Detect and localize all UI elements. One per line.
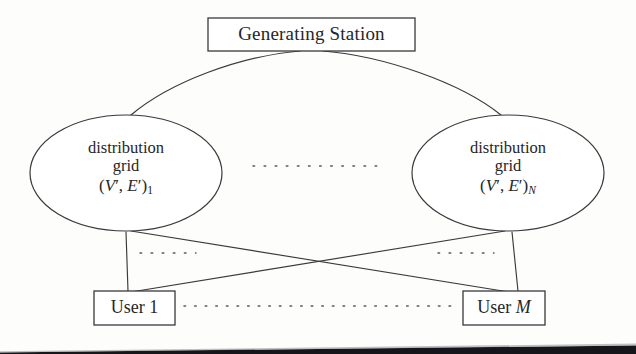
edge-station-to-right-grid [323, 51, 501, 115]
distribution-grid-right-math: (V′, E′)N [412, 176, 604, 198]
user-first-index: 1 [149, 297, 158, 317]
math-symbol-e: E [127, 176, 137, 195]
distribution-grid-right-line2: grid [412, 157, 604, 175]
distribution-grid-left-math: (V′, E′)1 [30, 176, 222, 198]
math-symbol-v: V [105, 176, 115, 195]
user-first-prefix: User [111, 297, 150, 317]
distribution-grid-left-line1: distribution [30, 139, 222, 157]
user-last-label: User M [463, 297, 545, 317]
math-subscript-index: N [528, 184, 536, 197]
distribution-grid-left-label: distribution grid (V′, E′)1 [30, 139, 222, 198]
distribution-grid-left-line2: grid [30, 157, 222, 175]
distribution-grid-right-label: distribution grid (V′, E′)N [412, 139, 604, 198]
math-subscript-index: 1 [147, 184, 153, 197]
distribution-grid-right-line1: distribution [412, 139, 604, 157]
diagram-canvas: Generating Station distribution grid (V′… [0, 0, 636, 354]
user-first-label: User 1 [94, 297, 175, 317]
edge-left-grid-to-user-first [126, 232, 128, 291]
edge-station-to-left-grid [131, 51, 300, 115]
math-symbol-v: V [486, 176, 496, 195]
math-symbol-e: E [508, 176, 518, 195]
generating-station-label: Generating Station [208, 23, 415, 44]
edge-right-grid-to-user-last [512, 232, 518, 291]
user-last-prefix: User [477, 297, 516, 317]
user-last-index: M [516, 297, 531, 317]
page-edge-artifact [0, 344, 636, 354]
generating-station-text: Generating Station [238, 23, 385, 44]
